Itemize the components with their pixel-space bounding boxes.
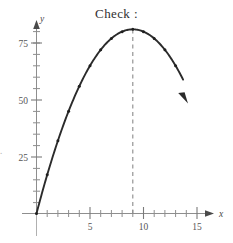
x-axis-name: x bbox=[218, 209, 224, 219]
data-point-marker bbox=[56, 139, 59, 142]
data-point-marker bbox=[153, 37, 156, 40]
left-edge-artifact: . bbox=[0, 143, 8, 157]
data-point-markers bbox=[35, 28, 177, 215]
curve-group bbox=[35, 28, 188, 215]
x-tick-label-15: 15 bbox=[192, 222, 202, 232]
parabola-chart: y x 25 50 75 bbox=[0, 0, 233, 243]
y-tick-label-25: 25 bbox=[19, 153, 29, 163]
data-point-marker bbox=[163, 48, 166, 51]
parabola-curve bbox=[37, 29, 184, 213]
data-point-marker bbox=[110, 37, 113, 40]
data-point-marker bbox=[78, 85, 81, 88]
data-point-marker bbox=[67, 110, 70, 113]
y-tick-label-50: 50 bbox=[19, 96, 29, 106]
figure-container: Check : . y x bbox=[0, 0, 233, 243]
x-tick-label-5: 5 bbox=[88, 222, 93, 232]
data-point-marker bbox=[89, 64, 92, 67]
data-point-marker bbox=[35, 212, 38, 215]
y-tick-label-75: 75 bbox=[19, 39, 29, 49]
data-point-marker bbox=[174, 64, 177, 67]
data-point-marker bbox=[131, 28, 134, 31]
page-title: Check : bbox=[0, 6, 233, 22]
x-tick-label-10: 10 bbox=[139, 222, 149, 232]
data-point-marker bbox=[46, 173, 49, 176]
x-axis-arrow-icon bbox=[205, 210, 214, 217]
data-point-marker bbox=[99, 48, 102, 51]
curve-end-arrow-icon bbox=[178, 92, 188, 103]
data-point-marker bbox=[142, 30, 145, 33]
data-point-marker bbox=[121, 30, 124, 33]
